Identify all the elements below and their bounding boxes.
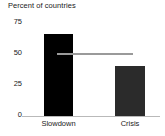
bar-crisis — [115, 66, 145, 116]
y-axis-tick-label-25: 25 — [0, 80, 22, 88]
y-axis-tick-label-75: 75 — [0, 18, 22, 26]
reference-line-50 — [57, 53, 133, 55]
y-axis-tick-label-0: 0 — [0, 111, 22, 119]
x-axis-tick-label-crisis: Crisis — [110, 119, 150, 128]
x-axis-line — [22, 116, 160, 117]
bar-slowdown — [44, 34, 73, 115]
y-axis-tick-label-50: 50 — [0, 49, 22, 57]
bar-chart: Percent of countries 75 50 25 0 Slowdown… — [0, 0, 165, 136]
x-axis-tick-label-slowdown: Slowdown — [33, 119, 84, 128]
plot-area: 75 50 25 0 Slowdown Crisis — [0, 0, 165, 136]
